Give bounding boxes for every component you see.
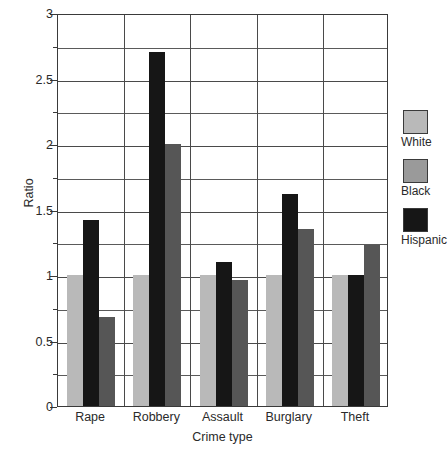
plot-area — [57, 14, 388, 407]
bar-theft-hispanic — [364, 245, 380, 406]
bar-burglary-hispanic — [298, 229, 314, 406]
legend-swatch-hispanic — [403, 208, 428, 232]
y-tick-label: 2.5 — [0, 74, 53, 87]
bar-robbery-white — [133, 275, 149, 406]
bar-rape-black — [83, 220, 99, 406]
legend-label-hispanic: Hispanic — [401, 234, 448, 247]
legend-swatch-black — [403, 159, 428, 183]
y-tick-label: 0.5 — [0, 336, 53, 349]
bar-burglary-black — [282, 194, 298, 406]
y-tick-minor — [53, 374, 57, 375]
legend-swatch-white — [403, 110, 428, 134]
bar-robbery-black — [149, 52, 165, 406]
y-tick-label: 0 — [0, 401, 53, 414]
bar-robbery-hispanic — [165, 144, 181, 406]
x-tick-label-assault: Assault — [189, 410, 255, 424]
x-tick-label-burglary: Burglary — [256, 410, 322, 424]
legend-item-white: White — [401, 110, 448, 149]
legend-item-black: Black — [401, 159, 448, 198]
bar-rape-hispanic — [99, 317, 115, 406]
y-tick-label: 1 — [0, 270, 53, 283]
bar-theft-black — [348, 275, 364, 406]
y-tick-minor — [53, 47, 57, 48]
y-tick-label: 3 — [0, 8, 53, 21]
bar-assault-hispanic — [232, 280, 248, 406]
bars-layer — [58, 15, 387, 406]
legend-label-white: White — [401, 136, 448, 149]
bar-assault-black — [216, 262, 232, 406]
bar-assault-white — [200, 275, 216, 406]
bar-theft-white — [332, 275, 348, 406]
legend-item-hispanic: Hispanic — [401, 208, 448, 247]
y-tick-minor — [53, 112, 57, 113]
x-axis-title: Crime type — [57, 430, 388, 444]
legend-label-black: Black — [401, 185, 448, 198]
y-tick-minor — [53, 243, 57, 244]
y-tick-minor — [53, 178, 57, 179]
bar-rape-white — [67, 275, 83, 406]
y-axis-title: Ratio — [22, 163, 36, 223]
legend: WhiteBlackHispanic — [401, 110, 448, 258]
x-tick-label-rape: Rape — [57, 410, 123, 424]
x-tick-label-robbery: Robbery — [123, 410, 189, 424]
y-tick-minor — [53, 309, 57, 310]
x-tick-label-theft: Theft — [322, 410, 388, 424]
bar-burglary-white — [266, 275, 282, 406]
y-tick-label: 2 — [0, 139, 53, 152]
bar-chart-figure: 00.511.522.53 Ratio RapeRobberyAssaultBu… — [0, 0, 448, 449]
